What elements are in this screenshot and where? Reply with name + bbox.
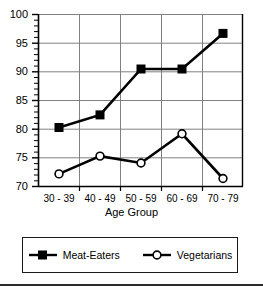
y-tick-label-90: 90 <box>0 66 28 77</box>
legend-entries: Meat-Eaters Vegetarians <box>23 238 237 272</box>
filled-square-marker-icon <box>28 249 58 261</box>
x-tick-label-70-79: 70 - 79 <box>193 194 253 204</box>
y-tick-label-75: 75 <box>0 152 28 163</box>
open-circle-marker-icon <box>142 249 172 261</box>
legend-entry-vegetarians: Vegetarians <box>142 249 232 261</box>
y-tick-label-100: 100 <box>0 9 28 20</box>
chart-figure: 100 95 90 85 80 75 70 30 - 39 40 - 49 50… <box>0 0 263 291</box>
x-axis-title: Age Group <box>0 206 263 218</box>
plot-block: 100 95 90 85 80 75 70 30 - 39 40 - 49 50… <box>0 0 263 228</box>
y-tick-label-80: 80 <box>0 124 28 135</box>
y-tick-label-85: 85 <box>0 95 28 106</box>
legend-entry-meat-eaters: Meat-Eaters <box>28 249 120 261</box>
legend-label-vegetarians: Vegetarians <box>177 249 232 261</box>
chart-legend: Meat-Eaters Vegetarians <box>22 237 238 273</box>
y-tick-label-70: 70 <box>0 181 28 192</box>
legend-label-meat-eaters: Meat-Eaters <box>63 249 120 261</box>
y-axis-major-ticks <box>32 15 38 187</box>
y-tick-label-95: 95 <box>0 38 28 49</box>
bottom-divider <box>0 284 263 286</box>
